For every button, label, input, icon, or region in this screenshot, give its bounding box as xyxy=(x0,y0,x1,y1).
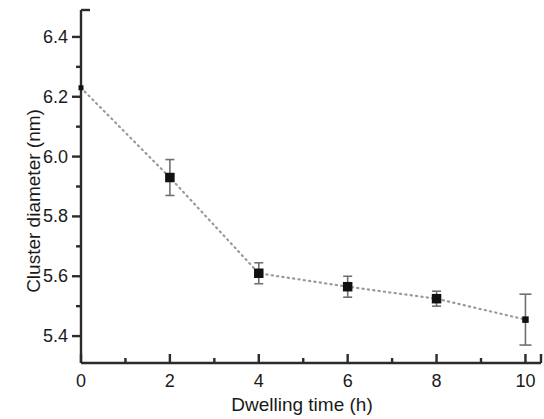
axes-layer xyxy=(81,10,541,363)
data-marker xyxy=(165,173,175,183)
tick-marks-layer xyxy=(72,37,525,363)
x-axis-title: Dwelling time (h) xyxy=(0,394,544,416)
data-marker xyxy=(432,294,442,304)
data-marker xyxy=(343,282,353,292)
x-tick-label: 0 xyxy=(76,371,86,392)
data-markers-layer xyxy=(79,85,529,323)
x-tick-label: 6 xyxy=(343,371,353,392)
trend-line xyxy=(81,88,525,320)
x-tick-label: 2 xyxy=(165,371,175,392)
x-tick-label: 4 xyxy=(254,371,264,392)
trend-line-layer xyxy=(81,88,525,320)
plot-canvas xyxy=(0,0,544,419)
chart-figure: 5.45.65.86.06.26.4 0246810 Cluster diame… xyxy=(0,0,544,419)
x-tick-label: 8 xyxy=(432,371,442,392)
error-bars-layer xyxy=(165,160,531,345)
data-marker xyxy=(254,269,264,279)
data-marker xyxy=(522,316,529,323)
x-tick-label: 10 xyxy=(515,371,535,392)
y-tick-label: 6.4 xyxy=(14,26,68,47)
y-axis-title: Cluster diameter (nm) xyxy=(23,61,45,341)
data-marker-anchor xyxy=(79,85,84,90)
